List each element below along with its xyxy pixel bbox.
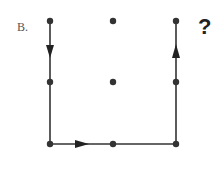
dot (110, 141, 116, 147)
arrow-down-icon (46, 45, 54, 58)
dot (173, 79, 179, 85)
dot-grid-path-diagram (0, 0, 223, 181)
dot (110, 18, 116, 24)
dot (47, 18, 53, 24)
dot (47, 79, 53, 85)
arrow-right-icon (75, 140, 89, 148)
dot (110, 79, 116, 85)
arrow-up-icon (172, 44, 180, 58)
arrowheads (46, 44, 180, 148)
grid-dots (47, 18, 179, 147)
dot (173, 18, 179, 24)
dot (173, 141, 179, 147)
dot (47, 141, 53, 147)
